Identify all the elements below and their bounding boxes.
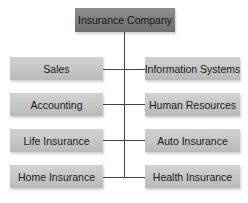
node-life-insurance: Life Insurance (10, 129, 103, 152)
node-information-systems: Information Systems (145, 57, 240, 80)
connector-row-4 (103, 177, 145, 178)
connector-row-2 (103, 104, 145, 105)
root-node: Insurance Company (75, 8, 175, 32)
connector-row-1 (103, 69, 145, 70)
node-auto-insurance: Auto Insurance (145, 129, 240, 152)
node-home-insurance: Home Insurance (10, 165, 103, 188)
connector-row-3 (103, 140, 145, 141)
node-human-resources: Human Resources (145, 93, 240, 116)
node-accounting: Accounting (10, 93, 103, 116)
node-sales: Sales (10, 57, 103, 80)
node-health-insurance: Health Insurance (145, 165, 240, 188)
